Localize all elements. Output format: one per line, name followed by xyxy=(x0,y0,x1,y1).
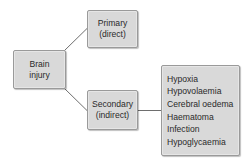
cause-item: Hypoxia xyxy=(167,73,198,86)
cause-item: Haematoma xyxy=(167,111,214,124)
brain-injury-diagram: Brain injury Primary (direct) Secondary … xyxy=(0,0,250,164)
cause-item: Cerebral oedema xyxy=(167,98,233,111)
root-node-brain-injury: Brain injury xyxy=(13,50,66,89)
node-label-line: Brain xyxy=(29,59,49,70)
node-label-line: injury xyxy=(29,70,50,81)
secondary-causes-list: Hypoxia Hypovolaemia Cerebral oedema Hae… xyxy=(161,65,240,156)
node-label-line: Secondary xyxy=(92,99,133,110)
connector-root-to-primary xyxy=(64,28,88,51)
node-label-line: (indirect) xyxy=(96,110,129,121)
connector-root-to-secondary xyxy=(64,88,88,111)
node-label-line: Primary xyxy=(98,18,128,29)
branch-node-secondary: Secondary (indirect) xyxy=(87,90,138,130)
cause-item: Hypoglycaemia xyxy=(167,136,226,149)
branch-node-primary: Primary (direct) xyxy=(87,10,138,48)
node-label-line: (direct) xyxy=(99,29,126,40)
cause-item: Infection xyxy=(167,123,200,136)
cause-item: Hypovolaemia xyxy=(167,85,221,98)
